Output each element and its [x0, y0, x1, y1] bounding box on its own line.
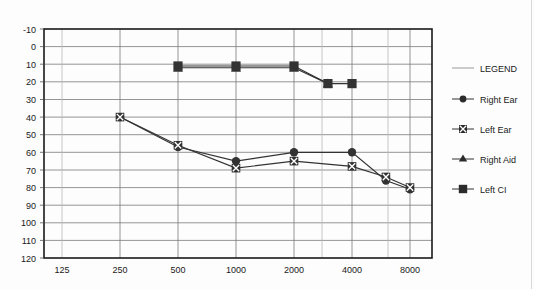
y-tick-label: 80	[26, 183, 36, 193]
legend-title-label: LEGEND	[480, 64, 518, 74]
legend-label-right-ear: Right Ear	[480, 95, 518, 105]
filled-triangle-icon	[459, 155, 467, 162]
legend-label-left-ear: Left Ear	[480, 125, 512, 135]
data-point-filled-square	[323, 79, 332, 88]
filled-square-icon	[459, 185, 467, 193]
data-point-filled-square	[231, 61, 240, 70]
x-tick-label: 250	[112, 265, 127, 275]
x-tick-label: 1000	[226, 265, 246, 275]
legend-label-right-aid: Right Aid	[480, 155, 516, 165]
x-tick-label: 500	[170, 265, 185, 275]
filled-circle-icon	[460, 96, 467, 103]
series-right-ear	[116, 113, 414, 194]
y-tick-label: -10	[23, 25, 36, 35]
legend-entry-left-ear[interactable]: Left Ear	[452, 125, 512, 135]
horizontal-gridlines	[44, 47, 432, 241]
data-point-filled-square	[289, 61, 298, 70]
y-tick-label: 0	[31, 42, 36, 52]
x-tick-label: 2000	[284, 265, 304, 275]
y-tick-label: 30	[26, 95, 36, 105]
data-point-x-in-square	[290, 157, 299, 166]
y-tick-label: 60	[26, 148, 36, 158]
data-point-filled-square	[173, 61, 182, 70]
audiogram-page: -10 0 10 20 30 40 50 60 70 80 90 100 110…	[0, 0, 535, 289]
data-point-x-in-square	[406, 183, 415, 192]
series-left-ci	[173, 61, 356, 88]
x-tick-label: 125	[54, 265, 69, 275]
y-tick-label: 20	[26, 77, 36, 87]
y-tick-label: 70	[26, 166, 36, 176]
y-tick-label: 40	[26, 113, 36, 123]
y-axis-tick-labels: -10 0 10 20 30 40 50 60 70 80 90 100 110…	[21, 25, 36, 264]
y-tick-label: 10	[26, 60, 36, 70]
y-tick-label: 50	[26, 130, 36, 140]
legend-entry-right-aid[interactable]: Right Aid	[452, 155, 516, 165]
data-point-filled-circle	[348, 148, 356, 156]
y-tick-label: 100	[21, 218, 36, 228]
y-tick-label: 110	[22, 236, 36, 246]
series-line	[120, 117, 410, 189]
legend-entry-left-ci[interactable]: Left CI	[452, 185, 507, 195]
data-point-filled-square	[347, 79, 356, 88]
y-tick-label: 120	[21, 254, 36, 264]
y-tick-label: 90	[26, 201, 36, 211]
series-line	[178, 68, 328, 84]
data-point-x-in-square	[232, 164, 241, 173]
data-point-x-in-square	[116, 113, 125, 122]
x-axis-tick-labels: 125 250 500 1000 2000 4000 8000	[54, 265, 420, 275]
data-point-x-in-square	[348, 162, 357, 171]
legend-entry-right-ear[interactable]: Right Ear	[452, 95, 518, 105]
x-tick-label: 4000	[342, 265, 362, 275]
chart-legend: LEGEND Right Ear Left Ear Right Aid	[452, 64, 518, 195]
legend-entry-title: LEGEND	[452, 64, 518, 74]
audiogram-chart: -10 0 10 20 30 40 50 60 70 80 90 100 110…	[0, 0, 535, 289]
data-series-layer	[116, 61, 415, 193]
data-point-x-in-square	[174, 141, 183, 150]
data-point-filled-circle	[290, 148, 298, 156]
legend-label-left-ci: Left CI	[480, 185, 507, 195]
data-point-x-in-square	[382, 173, 391, 182]
x-tick-label: 8000	[400, 265, 420, 275]
